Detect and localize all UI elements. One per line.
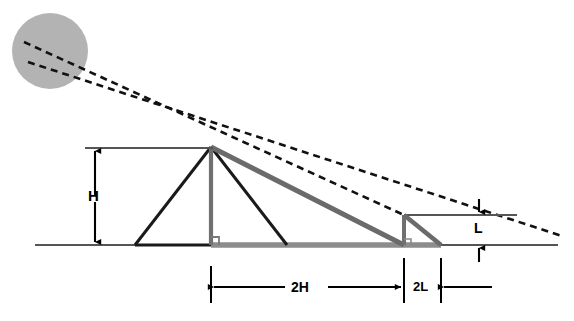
label-height-short: L [474,221,483,235]
tall-object-shadow-hypotenuse [211,147,404,245]
short-object-shadow-hypotenuse [404,215,441,245]
diagram-canvas [0,0,574,321]
label-height-tall: H [88,188,99,203]
light-ray-lower-dashed [28,62,562,236]
tall-object-left-slope [135,147,211,245]
tall-object-right-slope [211,147,287,245]
light-ray-upper-dashed [24,42,404,215]
label-shadow-tall: 2H [291,280,309,294]
geometry-diagram: H 2H 2L L [0,0,574,321]
label-shadow-short: 2L [413,280,428,293]
